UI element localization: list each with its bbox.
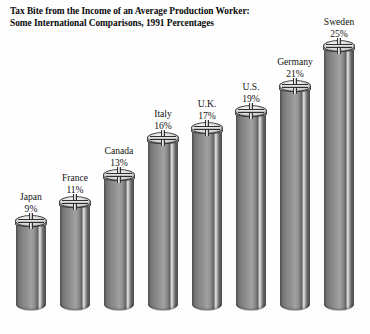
bar-value-label: 19% [242,93,260,104]
cylinder-body [60,205,90,310]
coin-cap-icon [59,196,91,208]
bar-category-label: Italy [154,108,172,119]
bar-group-france[interactable]: France 11% [60,196,90,310]
bar-label-us: U.S. 19% [242,81,260,104]
bar-category-label: France [62,172,88,183]
chart-plot-area: Japan 9% France 11% [0,0,370,334]
bar-group-uk[interactable]: U.K. 17% [192,122,222,310]
cylinder-body [148,141,178,310]
bar-group-us[interactable]: U.S. 19% [236,105,266,310]
bar-group-sweden[interactable]: Sweden 25% [324,40,354,310]
bar-cylinder [236,105,266,310]
coin-cap-icon [147,132,179,144]
bar-cylinder [192,122,222,310]
bar-value-label: 17% [198,110,217,121]
bar-label-uk: U.K. 17% [198,98,217,121]
bar-cylinder [104,169,134,310]
coin-cap-icon [235,105,267,117]
coin-cap-icon [279,80,311,92]
bar-value-label: 11% [62,184,88,195]
bar-category-label: Japan [20,191,42,202]
chart-container: Tax Bite from the Income of an Average P… [0,0,370,334]
bar-label-canada: Canada 13% [105,145,134,168]
coin-cap-icon [191,122,223,134]
bar-label-japan: Japan 9% [20,191,42,214]
bar-cylinder [148,132,178,310]
bar-cylinder [280,80,310,310]
coin-cap-icon [103,169,135,181]
bar-value-label: 9% [20,203,42,214]
cylinder-body [16,224,46,310]
bar-value-label: 25% [324,28,354,39]
bar-label-germany: Germany 21% [277,56,313,79]
bar-category-label: U.K. [198,98,217,109]
bar-cylinder [16,215,46,310]
bar-group-japan[interactable]: Japan 9% [16,215,46,310]
bar-label-france: France 11% [62,172,88,195]
cylinder-body [104,178,134,310]
bar-category-label: U.S. [242,81,260,92]
bar-value-label: 13% [105,157,134,168]
bar-group-canada[interactable]: Canada 13% [104,169,134,310]
coin-cap-icon [15,215,47,227]
bar-group-italy[interactable]: Italy 16% [148,132,178,310]
bar-label-italy: Italy 16% [154,108,172,131]
bar-label-sweden: Sweden 25% [324,16,354,39]
bar-category-label: Sweden [324,16,354,27]
bar-category-label: Canada [105,145,134,156]
cylinder-body [192,131,222,310]
bar-category-label: Germany [277,56,313,67]
cylinder-body [236,114,266,310]
coin-cap-icon [323,40,355,52]
bar-value-label: 16% [154,120,172,131]
bar-group-germany[interactable]: Germany 21% [280,80,310,310]
cylinder-body [324,49,354,310]
bar-cylinder [324,40,354,310]
bar-cylinder [60,196,90,310]
cylinder-body [280,89,310,310]
bar-value-label: 21% [277,68,313,79]
